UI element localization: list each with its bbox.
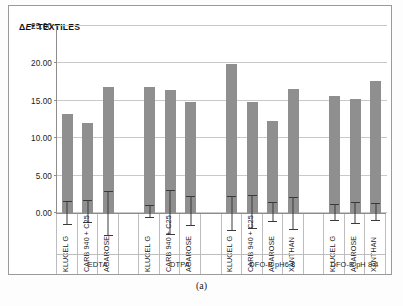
figure-page: ΔE* TEXTILES 0.005.0010.0015.0020.0025.0… — [0, 0, 403, 306]
error-bar-cap-top — [351, 202, 360, 203]
bar-slot — [57, 26, 78, 213]
bar[interactable] — [329, 96, 340, 213]
bar-slot-empty — [304, 26, 325, 213]
y-axis-tick-label: 5.00 — [36, 171, 52, 180]
plot-area: 0.005.0010.0015.0020.0025.00 — [56, 26, 386, 214]
bar-slot — [345, 26, 366, 213]
plot-wrapper: 0.005.0010.0015.0020.0025.00 — [56, 26, 386, 214]
bar[interactable] — [82, 123, 93, 213]
figure-frame: ΔE* TEXTILES 0.005.0010.0015.0020.0025.0… — [8, 5, 392, 275]
error-bar-cap-top — [63, 201, 72, 202]
bar-slot-empty — [119, 26, 140, 213]
error-bar-cap-top — [371, 203, 380, 204]
bar[interactable] — [226, 64, 237, 213]
bar-slot — [78, 26, 99, 213]
bar[interactable] — [267, 121, 278, 213]
bar-series — [57, 26, 386, 213]
bar[interactable] — [288, 89, 299, 213]
y-axis-tick-label: 15.00 — [31, 96, 52, 105]
y-axis-tick-label: 20.00 — [31, 59, 52, 68]
bar-slot-empty — [201, 26, 222, 213]
bar[interactable] — [165, 90, 176, 213]
error-bar-cap-top — [289, 197, 298, 198]
error-bar-cap-top — [166, 190, 175, 191]
bar[interactable] — [144, 87, 155, 213]
bar-slot — [98, 26, 119, 213]
bar[interactable] — [370, 81, 381, 213]
y-axis-tick-label: 0.00 — [36, 209, 52, 218]
bar-slot — [324, 26, 345, 213]
bar[interactable] — [247, 102, 258, 213]
bar-slot — [139, 26, 160, 213]
x-group-label: EDTA — [56, 254, 139, 274]
x-group-label: DTPA — [139, 254, 221, 274]
bar-slot — [365, 26, 386, 213]
bar-slot — [242, 26, 263, 213]
error-bar-cap-top — [268, 202, 277, 203]
figure-caption: (a) — [0, 280, 403, 291]
error-bar-cap-top — [83, 200, 92, 201]
bar-slot — [222, 26, 243, 213]
error-bar-cap-top — [145, 205, 154, 206]
error-bar-cap-top — [104, 191, 113, 192]
x-axis-group-labels: EDTADTPADFO-B pH6.8DFO-B pH 8.4 — [56, 254, 386, 274]
y-axis-tick-label: 25.00 — [31, 22, 52, 31]
bar[interactable] — [103, 87, 114, 213]
bar-slot — [263, 26, 284, 213]
bar-slot — [180, 26, 201, 213]
bar-slot — [283, 26, 304, 213]
error-bar-cap-top — [227, 196, 236, 197]
error-bar-cap-top — [186, 196, 195, 197]
bar[interactable] — [62, 114, 73, 213]
error-bar-cap-top — [248, 195, 257, 196]
bar[interactable] — [185, 102, 196, 213]
bar-slot — [160, 26, 181, 213]
error-bar-cap-top — [330, 204, 339, 205]
x-group-label: DFO-B pH 8.4 — [324, 254, 386, 274]
x-group-label: DFO-B pH6.8 — [222, 254, 325, 274]
y-axis-tick-label: 10.00 — [31, 134, 52, 143]
bar[interactable] — [350, 99, 361, 213]
